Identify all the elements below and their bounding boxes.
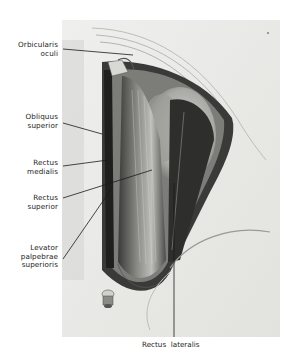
label-rectus-medialis: Rectus medialis	[27, 159, 58, 176]
label-orbicularis-oculi: Orbicularis oculi	[18, 41, 58, 58]
label-line: oculi	[18, 50, 58, 59]
label-obliquus-superior: Obliquus superior	[26, 113, 58, 130]
label-rectus-lateralis: Rectus lateralis	[142, 340, 199, 349]
label-line: superior	[28, 203, 58, 212]
label-rectus-superior: Rectus superior	[28, 194, 58, 211]
label-line: superioris	[21, 261, 58, 270]
label-line: superior	[26, 122, 58, 131]
label-line: medialis	[27, 168, 58, 177]
label-levator-palpebrae-superioris: Levator palpebrae superioris	[21, 244, 58, 270]
anatomical-figure: Orbicularis oculi Obliquus superior Rect…	[0, 0, 293, 358]
